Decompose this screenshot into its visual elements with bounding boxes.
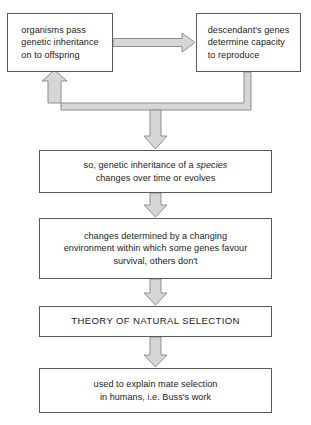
arrow-changes-to-theory xyxy=(144,279,167,305)
arrow-organisms-to-descendant xyxy=(113,33,195,52)
node-species-emphasis: species xyxy=(196,160,227,170)
node-theory-label: THEORY OF NATURAL SELECTION xyxy=(67,315,244,327)
arrow-loop-to-species xyxy=(144,110,167,149)
node-descendant-label: descendant's genes determine capacity to… xyxy=(204,24,294,61)
node-organisms-label: organisms pass genetic inheritance on to… xyxy=(17,24,102,61)
arrow-species-to-changes xyxy=(144,193,167,217)
node-species-line1-prefix: so, genetic inheritance of a xyxy=(84,160,197,170)
node-theory-of-natural-selection: THEORY OF NATURAL SELECTION xyxy=(39,306,272,337)
node-species-line2: changes over time or evolves xyxy=(96,173,216,183)
node-organisms-pass-genetic-inheritance: organisms pass genetic inheritance on to… xyxy=(7,13,113,72)
node-species-label: so, genetic inheritance of a specieschan… xyxy=(80,159,232,183)
node-buss-label: used to explain mate selection in humans… xyxy=(90,378,222,402)
arrow-theory-to-buss xyxy=(144,337,167,367)
arrow-descendant-feedback-to-organisms xyxy=(42,70,251,110)
node-changes-label: changes determined by a changing environ… xyxy=(60,230,252,267)
node-descendants-genes-determine-capacity: descendant's genes determine capacity to… xyxy=(196,13,301,72)
flow-diagram: organisms pass genetic inheritance on to… xyxy=(0,0,311,425)
node-used-to-explain-mate-selection: used to explain mate selection in humans… xyxy=(39,368,272,413)
node-genetic-inheritance-of-species-evolves: so, genetic inheritance of a specieschan… xyxy=(39,150,272,193)
node-changes-determined-by-environment: changes determined by a changing environ… xyxy=(39,218,272,279)
